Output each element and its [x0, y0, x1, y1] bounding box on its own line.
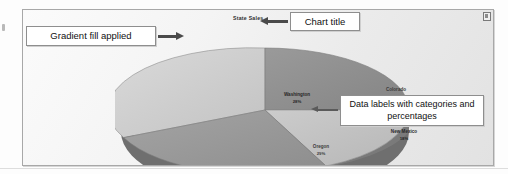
data-label-washington-percent: 28% — [267, 99, 327, 105]
arrow-right-icon — [158, 35, 176, 38]
data-label-oregon-percent: 29% — [293, 151, 349, 157]
page-rule — [0, 168, 508, 169]
data-label-colorado-name: Colorado — [386, 87, 406, 92]
arrow-left-icon-2 — [318, 109, 338, 111]
annotation-data-labels: Data labels with categories and percenta… — [340, 95, 484, 126]
figure-page: State Sales — [0, 0, 508, 174]
annotation-chart-title: Chart title — [290, 12, 360, 31]
annotation-gradient-fill: Gradient fill applied — [26, 26, 156, 46]
arrow-left-icon — [268, 20, 288, 23]
data-label-new-mexico-name: New Mexico — [391, 129, 417, 134]
data-label-new-mexico: New Mexico 18% — [373, 129, 435, 142]
data-label-oregon: Oregon 29% — [293, 144, 349, 157]
selection-handle-icon[interactable] — [483, 12, 491, 21]
scan-speck — [2, 24, 5, 31]
data-label-washington: Washington 28% — [267, 92, 327, 105]
data-label-oregon-name: Oregon — [313, 144, 329, 149]
chart-title: State Sales — [233, 15, 263, 21]
data-label-new-mexico-percent: 18% — [373, 136, 435, 142]
data-label-washington-name: Washington — [284, 92, 310, 97]
